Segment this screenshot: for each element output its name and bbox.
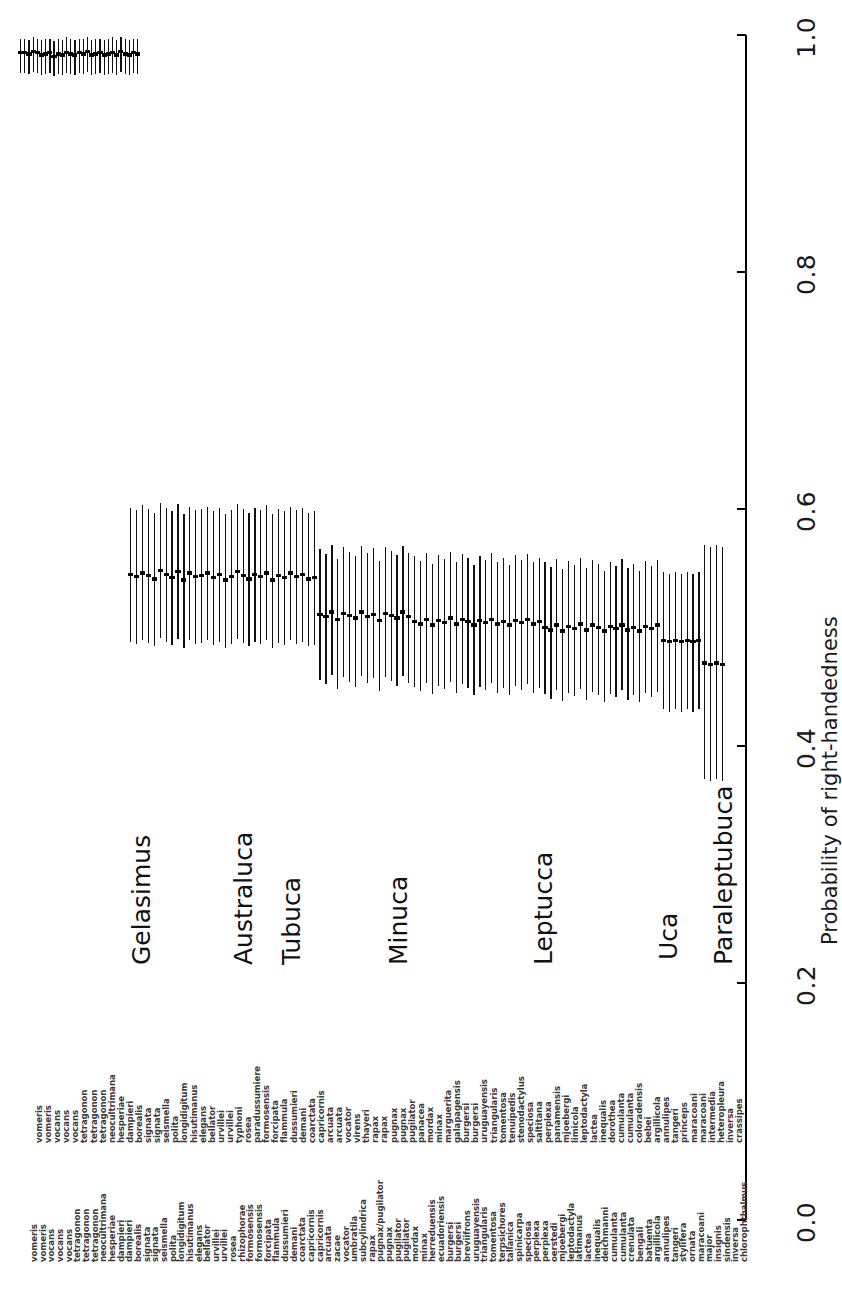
error-bar [651,566,652,698]
point-estimate [537,620,542,623]
point-estimate [542,626,547,629]
point-estimate [631,626,636,629]
point-estimate [282,576,287,579]
error-bar [28,40,29,74]
point-estimate [371,613,376,616]
point-estimate [241,574,246,577]
error-bar [355,556,356,686]
point-estimate [135,52,140,55]
point-estimate [211,576,216,579]
point-estimate [637,629,642,632]
error-bar [70,39,71,75]
point-estimate [217,573,222,576]
point-estimate [690,640,695,643]
point-estimate [531,622,536,625]
error-bar [521,560,522,690]
error-bar [420,561,421,691]
error-bar [108,39,109,75]
point-estimate [152,577,157,580]
point-estimate [430,623,435,626]
point-estimate [406,615,411,618]
point-estimate [264,571,269,574]
error-bar [550,567,551,699]
point-estimate [584,628,589,631]
point-estimate [347,614,352,617]
error-bar [615,566,616,698]
point-estimate [608,625,613,628]
point-estimate [252,573,257,576]
error-bar [337,559,338,689]
point-estimate [714,661,719,664]
point-estimate [412,620,417,623]
point-estimate [128,573,133,576]
error-bar [604,571,605,703]
point-estimate [625,628,630,631]
point-estimate [276,574,281,577]
point-estimate [572,627,577,630]
error-bar [112,37,113,73]
error-bar [325,554,326,684]
point-estimate [164,573,169,576]
error-bar [45,39,46,75]
point-estimate [205,571,210,574]
point-estimate [341,612,346,615]
error-bar [610,562,611,694]
error-bar [53,41,54,77]
error-bar [456,562,457,692]
point-estimate [181,578,186,581]
point-estimate [460,618,465,621]
point-estimate [383,612,388,615]
point-estimate [258,575,263,578]
point-estimate [554,623,559,626]
point-estimate [578,622,583,625]
point-estimate [424,618,429,621]
point-estimate [158,569,163,572]
point-estimate [702,661,707,664]
point-estimate [436,619,441,622]
error-bar [129,40,130,76]
point-estimate [146,574,151,577]
error-bar [62,40,63,76]
point-estimate [643,625,648,628]
point-estimate [566,625,571,628]
point-estimate [720,663,725,666]
point-estimate [667,640,672,643]
point-estimate [489,618,494,621]
point-estimate [507,623,512,626]
point-estimate [169,576,174,579]
point-estimate [377,619,382,622]
point-estimate [548,628,553,631]
point-estimate [140,571,145,574]
point-estimate [317,613,322,616]
point-estimate [394,616,399,619]
error-bar [485,560,486,690]
point-estimate [294,575,299,578]
point-estimate [323,615,328,618]
point-estimate [329,610,334,613]
point-estimate [134,575,139,578]
error-bar [33,37,34,71]
point-estimate [501,620,506,623]
error-bar [598,564,599,696]
point-estimate [679,640,684,643]
point-estimate [560,629,565,632]
point-estimate [359,610,364,613]
point-estimate [365,615,370,618]
point-estimate [229,575,234,578]
point-estimate [418,622,423,625]
point-estimate [708,663,713,666]
point-estimate [596,626,601,629]
error-bar [633,564,634,696]
error-bar [509,565,510,695]
point-estimate [288,571,293,574]
point-estimate [590,623,595,626]
error-bar [574,565,575,697]
error-bar [533,562,534,692]
point-estimate [235,570,240,573]
point-estimate [685,639,690,642]
error-bar [379,561,380,691]
error-bar [639,571,640,703]
point-estimate [448,616,453,619]
